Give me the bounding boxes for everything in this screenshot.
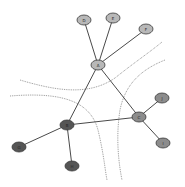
separator-boundary-2 [10,95,107,180]
node-c[interactable]: C [132,112,146,122]
separator-lines [10,42,165,180]
node-d[interactable]: D [77,15,91,25]
node-label: D [82,18,85,23]
node-f[interactable]: F [139,24,153,34]
node-g[interactable]: G [12,142,26,152]
node-h[interactable]: H [65,161,79,171]
edge-a-b [67,65,98,125]
node-label: B [66,123,69,128]
edge-b-c [67,117,139,125]
node-label: C [138,115,141,120]
node-a[interactable]: A [91,60,105,70]
node-label: I [162,141,163,146]
diagram-canvas: DEFABCGHJI [0,0,185,187]
node-j[interactable]: J [155,93,169,103]
network-diagram: DEFABCGHJI [0,0,185,187]
node-label: H [70,164,73,169]
node-label: A [97,63,100,68]
node-e[interactable]: E [106,13,120,23]
node-label: G [17,145,20,150]
edge-a-e [98,18,113,65]
edge-a-c [98,65,139,117]
edge-b-h [67,125,72,166]
graph-edges [19,18,163,166]
node-i[interactable]: I [156,138,170,148]
node-b[interactable]: B [60,120,74,130]
edge-a-d [84,20,98,65]
node-label: J [160,96,162,101]
edge-b-g [19,125,67,147]
graph-nodes: DEFABCGHJI [12,13,170,171]
